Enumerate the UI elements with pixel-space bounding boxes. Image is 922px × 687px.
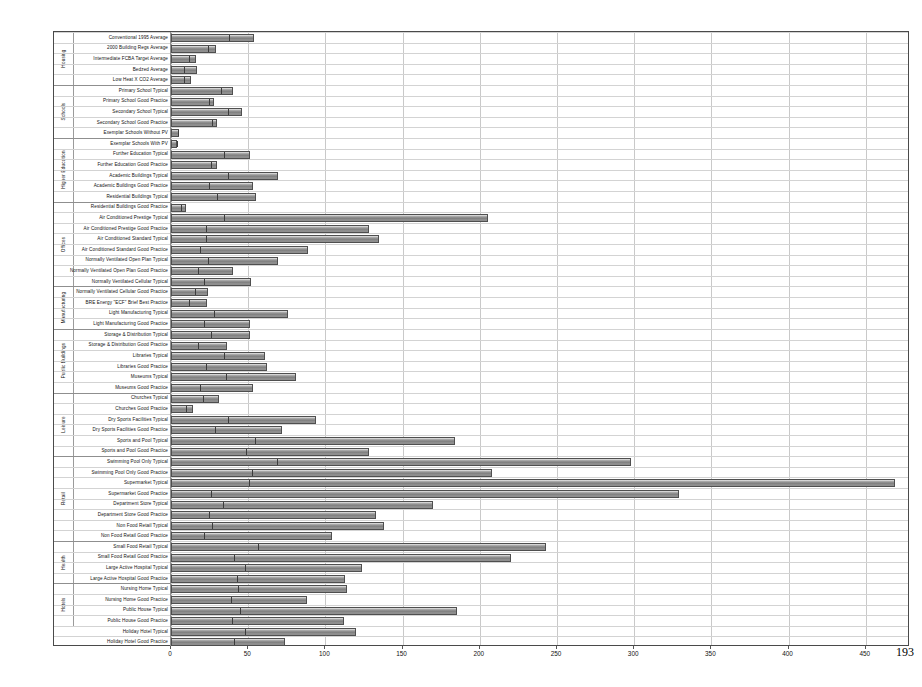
bar-container	[171, 149, 909, 160]
bar-segment-divider	[238, 586, 239, 592]
row-label-cell: Normally Ventilated Cellular Good Practi…	[54, 286, 171, 297]
row-label: Non Food Retail Typical	[117, 523, 168, 528]
bar	[171, 193, 256, 201]
row-label: Holiday Hotel Typical	[123, 629, 168, 634]
page-number: 193	[896, 645, 914, 660]
row-label-cell: Further Education Good Practice	[54, 159, 171, 170]
bar-segment-divider	[221, 88, 222, 94]
chart-plot-area: HousingSchoolsHigher EducationOfficesMan…	[53, 31, 909, 646]
row-label: Air Conditioned Prestige Good Practice	[84, 226, 168, 231]
bar-container	[171, 456, 909, 467]
bar	[171, 395, 219, 403]
bar	[171, 45, 216, 53]
bar-row: Museums Typical	[54, 371, 908, 382]
row-label: Museums Typical	[131, 374, 168, 379]
bar-container	[171, 244, 909, 255]
bar-segment-divider	[204, 279, 205, 285]
bar	[171, 416, 316, 424]
row-label-cell: Large Active Hospital Typical	[54, 562, 171, 573]
bar	[171, 554, 511, 562]
bar	[171, 257, 278, 265]
bar-container	[171, 477, 909, 488]
bar-row: Small Food Retail Typical	[54, 541, 908, 552]
bar-segment-divider	[198, 268, 199, 274]
row-label-cell: Air Conditioned Prestige Typical	[54, 212, 171, 223]
row-label: Air Conditioned Standard Typical	[97, 236, 168, 241]
row-label-cell: Swimming Pool Only Good Practice	[54, 467, 171, 478]
row-label: Residential Buildings Typical	[106, 194, 168, 199]
x-tick-label: 0	[168, 650, 172, 657]
x-tick	[479, 646, 480, 649]
row-label-cell: Light Manufacturing Good Practice	[54, 318, 171, 329]
row-label-cell: Bedzed Average	[54, 64, 171, 75]
row-label-cell: Department Store Typical	[54, 499, 171, 510]
bar-container	[171, 371, 909, 382]
row-label-cell: Dry Sports Facilities Good Practice	[54, 424, 171, 435]
row-label: Non Food Retail Good Practice	[101, 533, 168, 538]
row-label-cell: Further Education Typical	[54, 149, 171, 160]
bar	[171, 87, 233, 95]
bar-container	[171, 509, 909, 520]
bar	[171, 352, 265, 360]
group-separator	[54, 393, 171, 394]
x-axis: 050100150200250300350400450	[53, 646, 909, 672]
bar	[171, 129, 179, 137]
bar-row: Normally Ventilated Cellular Typical	[54, 276, 908, 287]
row-label: Dry Sports Facilities Typical	[108, 417, 168, 422]
bar-segment-divider	[223, 502, 224, 508]
row-label: Supermarket Typical	[124, 480, 168, 485]
bar-segment-divider	[226, 374, 227, 380]
bar-row: Public House Good Practice	[54, 615, 908, 626]
bar-container	[171, 308, 909, 319]
bar-container	[171, 583, 909, 594]
bar-segment-divider	[229, 35, 230, 41]
bar-row: Light Manufacturing Good Practice	[54, 318, 908, 329]
x-tick	[170, 646, 171, 649]
row-label-cell: BRE Energy "ECF" Brief Best Practice	[54, 297, 171, 308]
bar-container	[171, 276, 909, 287]
bar-row: Normally Ventilated Cellular Good Practi…	[54, 286, 908, 297]
bar-container	[171, 615, 909, 626]
bar-container	[171, 424, 909, 435]
bar-container	[171, 594, 909, 605]
bar	[171, 585, 347, 593]
group-separator	[54, 202, 171, 203]
row-label-cell: Department Store Good Practice	[54, 509, 171, 520]
bar-row: Churches Typical	[54, 393, 908, 404]
row-label-cell: Non Food Retail Good Practice	[54, 530, 171, 541]
bar-segment-divider	[208, 258, 209, 264]
bar-row: Small Food Retail Good Practice	[54, 552, 908, 563]
bar-rows: Conventional 1995 Average2000 Building R…	[54, 32, 908, 645]
row-label: Conventional 1995 Average	[109, 35, 168, 40]
x-tick	[633, 646, 634, 649]
bar-container	[171, 265, 909, 276]
bar-segment-divider	[228, 173, 229, 179]
bar	[171, 511, 376, 519]
bar-container	[171, 520, 909, 531]
bar-row: Libraries Typical	[54, 350, 908, 361]
row-label: Dry Sports Facilities Good Practice	[93, 427, 168, 432]
bar-segment-divider	[224, 152, 225, 158]
bar	[171, 607, 457, 615]
bar-container	[171, 64, 909, 75]
row-label-cell: Normally Ventilated Cellular Typical	[54, 276, 171, 287]
bar-row: Non Food Retail Good Practice	[54, 530, 908, 541]
x-tick-label: 400	[782, 650, 793, 657]
row-label-cell: Museums Typical	[54, 371, 171, 382]
row-label-cell: Nursing Home Good Practice	[54, 594, 171, 605]
group-separator	[54, 456, 171, 457]
bar-container	[171, 212, 909, 223]
bar-container	[171, 191, 909, 202]
row-label-cell: Nursing Home Typical	[54, 583, 171, 594]
x-tick-label: 100	[319, 650, 330, 657]
bar-segment-divider	[234, 555, 235, 561]
bar-segment-divider	[214, 311, 215, 317]
x-tick	[710, 646, 711, 649]
bar-segment-divider	[198, 343, 199, 349]
bar-row: Further Education Typical	[54, 149, 908, 160]
bar	[171, 182, 253, 190]
bar	[171, 246, 308, 254]
row-label-cell: Large Active Hospital Good Practice	[54, 573, 171, 584]
bar-segment-divider	[211, 162, 212, 168]
bar-container	[171, 552, 909, 563]
